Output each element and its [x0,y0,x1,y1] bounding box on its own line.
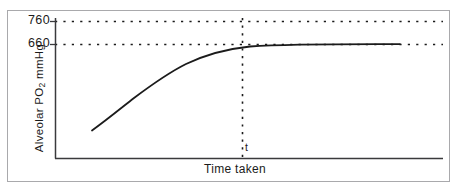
data-curve-alveolar-po2 [92,44,400,130]
x-axis-title: Time taken [175,162,295,176]
time-marker-label: t [245,141,248,153]
y-axis-title-suffix: mmHg [33,44,45,83]
y-axis-title: Alveolar PO2 mmHg [33,23,45,173]
y-axis-title-prefix: Alveolar PO [33,87,45,152]
chart-figure: 760 660 Alveolar PO2 mmHg Time taken t [0,0,463,192]
y-axis-title-subscript: 2 [37,82,47,87]
